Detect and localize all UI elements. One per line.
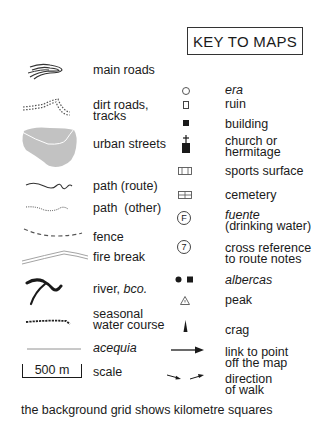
label-albercas: albercas	[225, 275, 272, 286]
fuente-icon: F	[177, 211, 191, 225]
label-scale: scale	[93, 367, 122, 378]
key-title: KEY TO MAPS	[187, 27, 303, 55]
dirt-roads-icon	[20, 95, 72, 117]
label-seasonal: seasonal water course	[93, 309, 165, 331]
urban-area-icon	[18, 126, 80, 170]
label-fuente: fuente (drinking water)	[225, 210, 311, 232]
direction-arrows-icon	[166, 372, 206, 382]
sports-surface-icon	[178, 167, 192, 175]
path-route-icon	[24, 180, 74, 194]
path-other-icon	[24, 202, 70, 214]
scale-bar-icon: 500 m	[22, 364, 82, 378]
crag-icon	[183, 320, 188, 332]
church-icon	[180, 135, 192, 155]
label-direction: direction of walk	[225, 374, 272, 396]
label-path-other: path (other)	[93, 203, 161, 214]
label-crag: crag	[225, 325, 249, 336]
fire-break-icon	[20, 247, 90, 265]
albercas-icon	[175, 276, 195, 283]
label-fence: fence	[93, 232, 124, 243]
peak-icon	[180, 296, 190, 305]
label-river: river, bco.	[93, 284, 147, 295]
label-fire-break: fire break	[93, 252, 145, 263]
cemetery-icon	[178, 191, 192, 199]
label-peak: peak	[225, 295, 252, 306]
label-era: era	[225, 85, 243, 96]
label-path-route: path (route)	[93, 181, 158, 192]
label-church: church or hermitage	[225, 136, 281, 158]
label-link: link to point off the map	[225, 347, 288, 369]
label-acequia: acequia	[93, 343, 137, 354]
building-icon	[183, 120, 189, 126]
ruin-icon	[183, 101, 189, 109]
cross-reference-icon: 7	[177, 240, 191, 254]
arrow-link-icon	[171, 346, 205, 354]
grid-note: the background grid shows kilometre squa…	[21, 403, 273, 417]
label-ruin: ruin	[225, 99, 246, 110]
label-building: building	[225, 119, 268, 130]
seasonal-water-icon	[24, 318, 72, 326]
label-sports: sports surface	[225, 166, 304, 177]
era-circle-icon	[182, 87, 190, 95]
label-main-roads: main roads	[93, 65, 155, 76]
fence-icon	[22, 226, 84, 240]
label-dirt-roads: dirt roads, tracks	[93, 100, 149, 122]
acequia-icon	[27, 347, 81, 351]
main-roads-icon	[24, 62, 70, 84]
label-cemetery: cemetery	[225, 190, 276, 201]
river-icon	[25, 278, 65, 308]
label-cross-reference: cross reference to route notes	[225, 243, 311, 265]
label-urban-streets: urban streets	[93, 139, 166, 150]
